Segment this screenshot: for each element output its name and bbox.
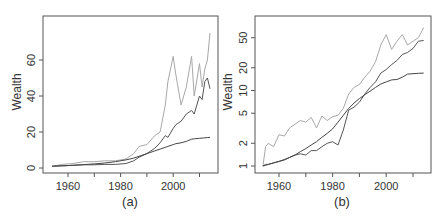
series-line-dark-smooth	[263, 73, 424, 166]
panel-b: 196019802000 125102050 Wealth (b)	[221, 16, 431, 209]
series-line-light-grey-volatile	[52, 33, 210, 166]
series-line-dark-volatile	[52, 78, 210, 166]
figure: 196019802000 0204060 Wealth (a) 19601980…	[0, 0, 447, 217]
x-tick-label: 1960	[56, 180, 80, 192]
y-axis-title-a: Wealth	[10, 73, 24, 110]
x-tick-label: 1980	[108, 180, 132, 192]
series-lines-b	[263, 28, 424, 166]
x-axis-b: 196019802000	[267, 173, 413, 192]
panel-a: 196019802000 0204060 Wealth (a)	[10, 16, 218, 209]
y-axis-a: 0204060	[25, 54, 43, 171]
y-tick-label: 50	[237, 32, 249, 44]
x-tick-label: 2000	[374, 180, 398, 192]
panel-label-b: (b)	[334, 194, 350, 209]
y-tick-label: 40	[25, 90, 37, 102]
series-line-light-grey-volatile	[263, 28, 424, 166]
x-tick-label: 1960	[267, 180, 291, 192]
y-tick-label: 60	[25, 54, 37, 66]
y-tick-label: 2	[237, 140, 249, 146]
y-tick-label: 10	[237, 84, 249, 96]
y-tick-label: 20	[237, 62, 249, 74]
panel-label-a: (a)	[122, 194, 138, 209]
series-line-dark-volatile	[263, 41, 424, 167]
y-tick-label: 0	[25, 165, 37, 171]
x-tick-label: 2000	[161, 180, 185, 192]
plot-frame-a	[43, 16, 218, 173]
x-axis-a: 196019802000	[56, 173, 200, 192]
x-tick-label: 1980	[320, 180, 344, 192]
y-tick-label: 20	[25, 126, 37, 138]
series-lines-a	[52, 33, 210, 166]
y-tick-label: 1	[237, 163, 249, 169]
y-tick-label: 5	[237, 110, 249, 116]
y-axis-title-b: Wealth	[221, 73, 235, 110]
y-axis-b: 125102050	[237, 32, 255, 169]
